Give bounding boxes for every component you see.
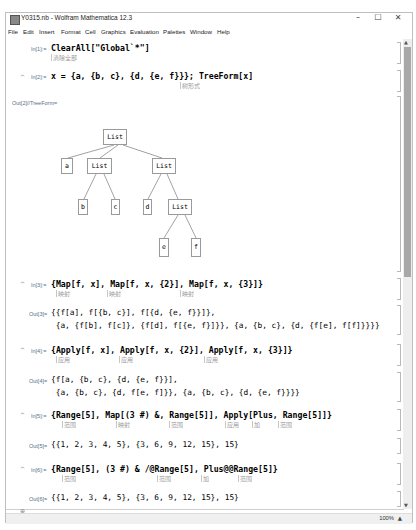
cell-bracket[interactable] xyxy=(397,491,401,507)
menu-window[interactable]: Window xyxy=(190,28,212,35)
tree-node-list-ef: List xyxy=(168,199,192,215)
in-label: In[3]:= xyxy=(31,282,46,288)
function-hint: 应用 xyxy=(225,421,239,428)
function-hint: 映射 xyxy=(107,290,121,297)
tree-node-list-bc: List xyxy=(87,158,112,174)
group-opener-icon[interactable]: ^ xyxy=(20,280,25,287)
cell-bracket[interactable] xyxy=(397,409,401,431)
function-hint: 范围 xyxy=(62,421,76,428)
group-opener-icon[interactable]: ^ xyxy=(20,465,25,472)
function-hint: 应用 xyxy=(56,356,70,363)
function-hint: 范围 xyxy=(169,421,183,428)
cell-bracket[interactable] xyxy=(397,278,401,300)
cell-bracket[interactable] xyxy=(397,438,401,454)
tree-node-list-def: List xyxy=(152,158,176,174)
input-code[interactable]: {Range[5], Map[(3 #) &, Range[5]], Apply… xyxy=(51,410,332,420)
scrollbar-thumb[interactable] xyxy=(404,47,411,277)
in-label: In[6]:= xyxy=(31,467,46,473)
function-hint: 应用 xyxy=(204,356,218,363)
output-line: {{f[a], f[{b, c}], f[{d, {e, f}}]}, xyxy=(51,308,215,317)
menu-bar: File Edit Insert Format Cell Graphics Ev… xyxy=(6,28,412,39)
window-title: Y0315.nb - Wolfram Mathematica 12.3 xyxy=(21,14,132,21)
cell-bracket[interactable] xyxy=(397,70,401,92)
menu-insert[interactable]: Insert xyxy=(39,28,54,35)
status-bar: 100% ▲ xyxy=(6,513,412,524)
tree-node-b: b xyxy=(78,199,88,215)
group-opener-icon[interactable]: ^ xyxy=(20,411,25,418)
menu-graphics[interactable]: Graphics xyxy=(101,28,126,35)
close-button[interactable]: ✕ xyxy=(390,13,406,22)
out-label: Out[5]= xyxy=(29,443,47,449)
cell-bracket[interactable] xyxy=(397,344,401,366)
output-line: {a, {b, c}, {d, f[e, f]}}, {a, {b, c}, {… xyxy=(51,388,300,397)
out-label: Out[3]= xyxy=(29,311,47,317)
out-label: Out[4]= xyxy=(29,378,47,384)
group-opener-icon[interactable]: ^ xyxy=(20,346,25,353)
title-bar: Y0315.nb - Wolfram Mathematica 12.3 – ☐ … xyxy=(6,13,412,27)
cell-bracket[interactable] xyxy=(397,305,401,335)
cell-bracket[interactable] xyxy=(397,463,401,485)
menu-edit[interactable]: Edit xyxy=(23,28,34,35)
tree-node-a: a xyxy=(61,158,73,174)
function-hint: 映射 xyxy=(116,421,130,428)
menu-help[interactable]: Help xyxy=(217,28,230,35)
function-hint: 映射 xyxy=(56,290,70,297)
menu-cell[interactable]: Cell xyxy=(85,28,96,35)
menu-palettes[interactable]: Palettes xyxy=(163,28,185,35)
in-label: In[5]:= xyxy=(31,413,46,419)
cell-bracket[interactable] xyxy=(397,96,401,272)
output-line: {f[a, {b, c}, {d, {e, f}}], xyxy=(51,375,178,384)
input-code[interactable]: {Range[5], (3 #) & /@Range[5], Plus@@Ran… xyxy=(51,464,278,474)
scroll-up-icon[interactable]: ▲ xyxy=(404,39,408,45)
function-hint: 应用 xyxy=(119,356,133,363)
minimize-button[interactable]: – xyxy=(350,13,366,22)
tree-node-d: d xyxy=(143,199,152,215)
tree-node-f: f xyxy=(191,238,201,257)
menu-file[interactable]: File xyxy=(8,28,18,35)
function-hint: 范围 xyxy=(157,475,171,482)
output-line: {{1, 2, 3, 4, 5}, {3, 6, 9, 12, 15}, 15} xyxy=(51,440,239,449)
tree-node-root-list: List xyxy=(103,129,127,145)
zoom-menu-icon[interactable]: ▲ xyxy=(398,515,402,521)
input-code[interactable]: {Map[f, x], Map[f, x, {2}], Map[f, x, {3… xyxy=(51,279,263,289)
zoom-level[interactable]: 100% xyxy=(379,515,394,521)
mathematica-window: Y0315.nb - Wolfram Mathematica 12.3 – ☐ … xyxy=(5,12,413,523)
in-label: In[4]:= xyxy=(31,348,46,354)
function-hint: 加 xyxy=(252,421,260,428)
function-hint: 范围 xyxy=(238,475,252,482)
tree-node-e: e xyxy=(159,238,169,257)
cell-bracket[interactable] xyxy=(397,372,401,402)
function-hint: 范围 xyxy=(62,475,76,482)
input-code[interactable]: {Apply[f, x], Apply[f, x, {2}], Apply[f,… xyxy=(51,345,293,355)
mathematica-notebook-icon xyxy=(10,15,20,25)
function-hint: 范围 xyxy=(278,421,292,428)
output-line: {a, {f[b], f[c]}, {f[d], f[{e, f}]}}, {a… xyxy=(51,321,380,330)
vertical-scrollbar[interactable]: ▲ ▼ xyxy=(403,39,412,509)
output-line: {{1, 2, 3, 4, 5}, {3, 6, 9, 12, 15}, 15} xyxy=(51,493,239,502)
scroll-down-icon[interactable]: ▼ xyxy=(404,502,408,508)
menu-format[interactable]: Format xyxy=(61,28,81,35)
out-label: Out[6]= xyxy=(29,496,47,502)
maximize-button[interactable]: ☐ xyxy=(370,13,386,22)
function-hint: 映射 xyxy=(180,290,194,297)
function-hint: 加 xyxy=(201,475,209,482)
tree-node-c: c xyxy=(111,199,120,215)
notebook-area[interactable]: In[1]:= ClearAll["Global`*"] 清除全部 ^ In[2… xyxy=(6,40,405,510)
menu-evaluation[interactable]: Evaluation xyxy=(130,28,159,35)
